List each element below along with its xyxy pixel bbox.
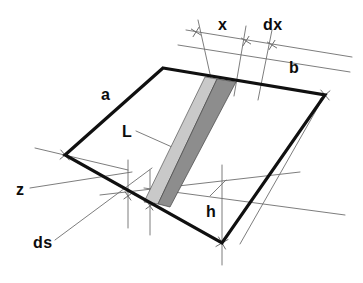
label-x: x bbox=[218, 17, 227, 33]
diagram-root: xdxbaLzhds bbox=[0, 0, 363, 283]
guide-left-cross bbox=[35, 148, 128, 170]
guide-measure-dx-a bbox=[234, 26, 246, 96]
diagram-canvas bbox=[0, 0, 363, 283]
label-h: h bbox=[206, 204, 216, 220]
guide-diag-right bbox=[240, 100, 322, 244]
label-z: z bbox=[16, 182, 25, 198]
guide-ds-leader bbox=[55, 168, 152, 240]
label-a: a bbox=[101, 87, 110, 103]
label-ds: ds bbox=[33, 235, 53, 251]
label-dx: dx bbox=[263, 17, 283, 33]
label-L: L bbox=[122, 124, 132, 140]
guide-L-leader bbox=[136, 131, 172, 147]
guide-measure-dx-b bbox=[258, 30, 272, 100]
label-b: b bbox=[289, 60, 299, 76]
